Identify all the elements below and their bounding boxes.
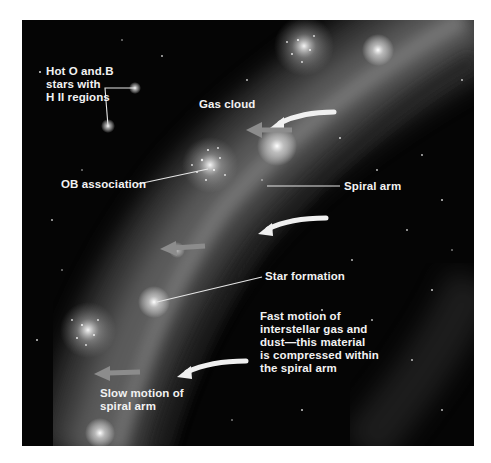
- label-fast-motion: Fast motion of interstellar gas and dust…: [260, 310, 379, 375]
- spiral-arm-diagram: Hot O and.B stars with H II regions Gas …: [22, 20, 474, 446]
- label-spiral-arm: Spiral arm: [344, 180, 401, 193]
- label-slow-motion: Slow motion of spiral arm: [100, 387, 184, 413]
- ob-association-cluster: [182, 137, 238, 193]
- label-gas-cloud: Gas cloud: [199, 98, 256, 111]
- label-star-formation: Star formation: [265, 270, 345, 283]
- label-hot-ob-stars: Hot O and.B stars with H II regions: [46, 65, 114, 104]
- star-formation-knot: [138, 286, 170, 318]
- label-ob-association: OB association: [61, 178, 146, 191]
